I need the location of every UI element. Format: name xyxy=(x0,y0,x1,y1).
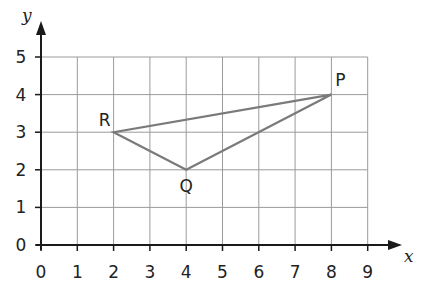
x-tick-label: 9 xyxy=(362,262,373,282)
x-axis-label: x xyxy=(404,246,414,266)
y-tick-label: 3 xyxy=(16,122,27,142)
y-tick-label: 4 xyxy=(16,85,27,105)
x-tick-label: 1 xyxy=(72,262,83,282)
point-label-q: Q xyxy=(180,176,193,196)
x-tick-label: 5 xyxy=(217,262,228,282)
coordinate-plane: x y 0123456789 012345 PQR xyxy=(0,0,424,303)
x-tick-label: 4 xyxy=(181,262,192,282)
axis-ticks xyxy=(35,57,368,251)
y-tick-label: 5 xyxy=(16,47,27,67)
y-tick-labels: 012345 xyxy=(16,47,27,255)
y-tick-label: 0 xyxy=(16,235,27,255)
x-tick-labels: 0123456789 xyxy=(36,262,374,282)
grid-lines xyxy=(41,57,368,245)
x-tick-label: 0 xyxy=(36,262,47,282)
y-axis-arrow-icon xyxy=(36,21,46,35)
x-tick-label: 7 xyxy=(290,262,301,282)
y-tick-label: 1 xyxy=(16,197,27,217)
point-label-r: R xyxy=(99,110,111,130)
x-tick-label: 2 xyxy=(108,262,119,282)
x-tick-label: 8 xyxy=(326,262,337,282)
y-tick-label: 2 xyxy=(16,160,27,180)
y-axis-label: y xyxy=(21,5,32,25)
x-axis-arrow-icon xyxy=(388,240,402,250)
x-tick-label: 3 xyxy=(144,262,155,282)
point-label-p: P xyxy=(335,70,345,90)
x-tick-label: 6 xyxy=(253,262,264,282)
